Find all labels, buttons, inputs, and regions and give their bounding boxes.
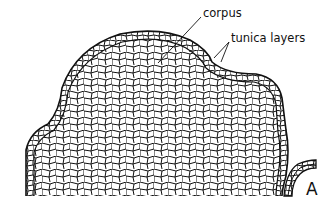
panel-label: A <box>306 181 318 198</box>
apex-figure: corpus tunica layers A <box>0 0 331 214</box>
tunica-leader-line-2 <box>221 42 229 62</box>
tunica-leader-line-1 <box>214 42 229 58</box>
corpus-label: corpus <box>203 8 242 20</box>
tunica-layers-label: tunica layers <box>231 33 305 45</box>
